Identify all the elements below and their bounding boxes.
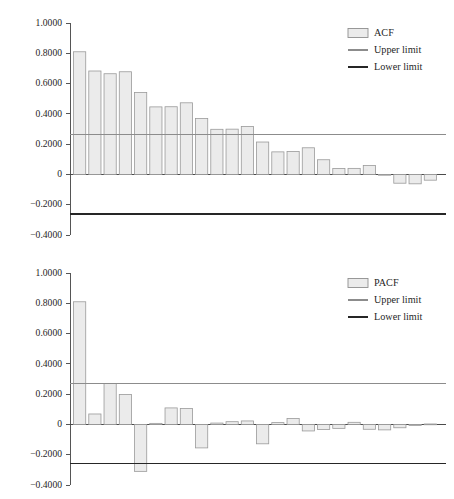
bar: [150, 423, 162, 424]
bar: [180, 103, 192, 175]
bar: [241, 421, 253, 424]
bar: [135, 424, 147, 471]
bar: [74, 52, 86, 175]
bar-series: [74, 302, 437, 472]
legend-label: PACF: [374, 277, 399, 288]
bar: [119, 394, 131, 424]
bar: [348, 422, 360, 424]
y-axis-tick-label: −0.2000: [30, 448, 62, 459]
y-axis-tick-label: 1.0000: [36, 267, 63, 278]
y-axis-tick-label: −0.4000: [30, 229, 62, 240]
bar: [318, 424, 330, 429]
pacf-plot: 1.00000.80000.60000.40000.20000−0.2000−0…: [0, 250, 454, 499]
bar: [89, 71, 101, 174]
bar: [424, 174, 436, 180]
legend-label: Lower limit: [374, 311, 423, 322]
bar: [211, 129, 223, 174]
bar: [226, 422, 238, 425]
pacf-chart-panel: 1.00000.80000.60000.40000.20000−0.2000−0…: [0, 250, 454, 499]
bar: [272, 152, 284, 175]
bar: [211, 423, 223, 424]
bar: [272, 423, 284, 425]
bar: [89, 414, 101, 424]
bar: [165, 408, 177, 425]
bar: [257, 142, 269, 174]
bar: [424, 424, 436, 425]
bar: [394, 424, 406, 427]
bar: [318, 160, 330, 175]
bar: [150, 107, 162, 175]
y-axis-tick-label: 0.6000: [36, 77, 63, 88]
bar: [119, 72, 131, 175]
legend-label: Lower limit: [374, 61, 423, 72]
acf-chart-panel: 1.00000.80000.60000.40000.20000−0.2000−0…: [0, 0, 454, 249]
bar: [165, 107, 177, 175]
legend-swatch-icon: [348, 29, 368, 38]
bar: [333, 169, 345, 175]
bar: [409, 424, 421, 425]
bar: [196, 119, 208, 175]
bar: [135, 93, 147, 175]
legend: PACFUpper limitLower limit: [348, 277, 423, 322]
legend-swatch-icon: [348, 279, 368, 288]
bar: [287, 419, 299, 425]
y-axis-tick-label: −0.4000: [30, 479, 62, 490]
y-axis-tick-label: 0.2000: [36, 388, 63, 399]
legend-label: ACF: [374, 27, 394, 38]
bar: [394, 174, 406, 183]
bar: [302, 424, 314, 431]
y-axis-tick-label: 0.6000: [36, 327, 63, 338]
bar: [241, 126, 253, 174]
bar: [104, 74, 116, 175]
acf-pacf-figure: 1.00000.80000.60000.40000.20000−0.2000−0…: [0, 0, 454, 499]
bar: [379, 174, 391, 175]
y-axis-tick-label: −0.2000: [30, 198, 62, 209]
bar: [257, 424, 269, 443]
bar: [287, 151, 299, 174]
bar: [196, 424, 208, 447]
y-axis-tick-label: 0.8000: [36, 47, 63, 58]
bar: [180, 409, 192, 425]
bar: [379, 424, 391, 429]
bar: [348, 168, 360, 174]
legend-label: Upper limit: [374, 44, 421, 55]
bar: [226, 129, 238, 174]
bar: [363, 165, 375, 174]
acf-plot: 1.00000.80000.60000.40000.20000−0.2000−0…: [0, 0, 454, 249]
legend: ACFUpper limitLower limit: [348, 27, 423, 72]
bar: [363, 424, 375, 429]
y-axis-tick-label: 0.8000: [36, 297, 63, 308]
y-axis-tick-label: 0.4000: [36, 358, 63, 369]
bar: [104, 384, 116, 425]
y-axis-tick-label: 0.2000: [36, 138, 63, 149]
bar: [74, 302, 86, 425]
bar: [409, 174, 421, 183]
y-axis-tick-label: 1.0000: [36, 17, 63, 28]
y-axis-tick-label: 0: [57, 168, 62, 179]
bar: [333, 424, 345, 428]
y-axis-tick-label: 0.4000: [36, 108, 63, 119]
bar: [302, 148, 314, 175]
y-axis-tick-label: 0: [57, 418, 62, 429]
legend-label: Upper limit: [374, 294, 421, 305]
